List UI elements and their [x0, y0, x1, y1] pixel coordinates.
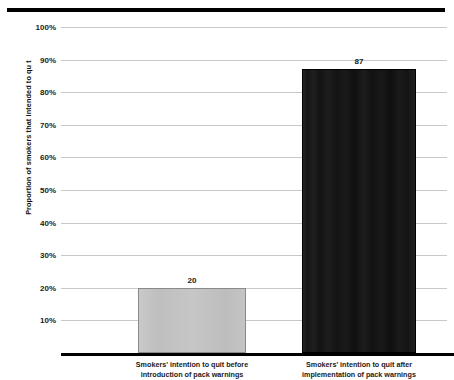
x-axis-category-label: Smokers' intention to quit beforeintrodu…: [110, 360, 274, 380]
x-axis-category-label-line: implementation of pack warnings: [274, 370, 444, 380]
y-axis-tick-label: 50%: [40, 186, 56, 195]
plot-area: 10%20%30%40%50%60%70%80%90%100% 2087 Smo…: [61, 27, 447, 326]
bar: 20: [138, 288, 246, 353]
y-axis-tick-label: 30%: [40, 251, 56, 260]
gridline: 100%: [61, 27, 447, 28]
top-rule-divider: [7, 8, 445, 12]
x-axis-category-label: Smokers' intention to quit afterimplemen…: [274, 360, 444, 380]
y-axis-tick-label: 10%: [40, 316, 56, 325]
bar-value-label: 20: [188, 276, 197, 285]
x-axis-line: [61, 353, 454, 356]
gridline: 90%: [61, 60, 447, 61]
y-axis-tick-label: 40%: [40, 218, 56, 227]
y-axis-tick-label: 80%: [40, 88, 56, 97]
y-axis-tick-label: 60%: [40, 153, 56, 162]
x-axis-category-label-line: Smokers' intention to quit after: [274, 360, 444, 370]
y-axis-tick-label: 70%: [40, 120, 56, 129]
x-axis-category-label-line: introduction of pack warnings: [110, 370, 274, 380]
y-axis-tick-label: 100%: [36, 23, 56, 32]
bar: 87: [302, 69, 416, 353]
y-axis-title: Proportion of smokers that intended to q…: [24, 38, 33, 238]
y-axis-tick-label: 20%: [40, 283, 56, 292]
x-axis-category-label-line: Smokers' intention to quit before: [110, 360, 274, 370]
y-axis-tick-label: 90%: [40, 55, 56, 64]
bar-value-label: 87: [355, 57, 364, 66]
